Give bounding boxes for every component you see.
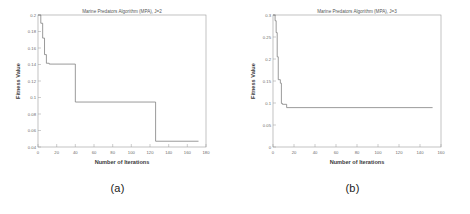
x-tick-label-a-3: 60 <box>92 150 97 155</box>
plot-area-frame-b <box>273 15 441 147</box>
x-tick-label-a-9: 180 <box>203 150 211 155</box>
figure-panel-a: Marine Predators Algorithm (MPA), J=2 <box>0 0 235 214</box>
panel-caption-b: (b) <box>235 182 470 194</box>
x-tick-label-a-6: 120 <box>147 150 155 155</box>
y-tick-label-a-5: 0.14 <box>28 62 37 67</box>
x-tick-label-a-1: 20 <box>54 150 59 155</box>
y-tick-label-a-4: 0.12 <box>28 79 37 84</box>
y-tick-label-b-5: 0.25 <box>263 35 272 40</box>
y-axis-label-a: Fitness Value <box>15 63 21 99</box>
chart-b: Marine Predators Algorithm (MPA), J=3 0 … <box>235 0 470 182</box>
y-tick-label-a-8: 0.2 <box>30 13 36 18</box>
plot-area-frame-a <box>38 15 206 147</box>
x-tick-label-a-0: 0 <box>37 150 40 155</box>
chart-title-b: Marine Predators Algorithm (MPA), J=3 <box>317 9 397 14</box>
y-tick-label-a-0: 0.04 <box>28 145 37 150</box>
y-tick-label-b-4: 0.2 <box>265 57 271 62</box>
x-tick-label-a-4: 80 <box>110 150 115 155</box>
x-axis-label-a: Number of Iterations <box>95 159 150 165</box>
y-tick-label-a-2: 0.08 <box>28 112 37 117</box>
x-tick-label-b-4: 80 <box>355 150 360 155</box>
y-tick-label-b-1: 0.05 <box>263 123 272 128</box>
x-tick-label-b-8: 160 <box>438 150 446 155</box>
y-tick-label-a-6: 0.16 <box>28 46 37 51</box>
x-tick-label-b-3: 60 <box>334 150 339 155</box>
x-tick-label-a-2: 40 <box>73 150 78 155</box>
x-tick-label-a-5: 100 <box>128 150 136 155</box>
x-tick-label-b-2: 40 <box>313 150 318 155</box>
x-axis-label-b: Number of Iterations <box>330 159 385 165</box>
x-tick-label-b-1: 20 <box>292 150 297 155</box>
figure-panel-row: Marine Predators Algorithm (MPA), J=2 <box>0 0 470 214</box>
y-tick-label-a-7: 0.18 <box>28 29 37 34</box>
y-tick-label-a-1: 0.06 <box>28 128 37 133</box>
x-tick-label-b-5: 100 <box>375 150 383 155</box>
chart-a: Marine Predators Algorithm (MPA), J=2 <box>0 0 235 182</box>
x-tick-label-b-6: 120 <box>396 150 404 155</box>
x-tick-label-a-7: 140 <box>165 150 173 155</box>
y-axis-label-b: Fitness Value <box>250 63 256 99</box>
chart-b-svg: Marine Predators Algorithm (MPA), J=3 0 … <box>235 0 470 182</box>
figure-panel-b: Marine Predators Algorithm (MPA), J=3 0 … <box>235 0 470 214</box>
x-tick-label-b-0: 0 <box>272 150 275 155</box>
y-tick-label-a-3: 0.1 <box>30 95 36 100</box>
chart-title-a: Marine Predators Algorithm (MPA), J=2 <box>82 9 162 14</box>
x-tick-label-a-8: 160 <box>184 150 192 155</box>
y-tick-label-b-2: 0.1 <box>265 101 271 106</box>
chart-a-svg: Marine Predators Algorithm (MPA), J=2 <box>0 0 235 182</box>
y-tick-label-b-6: 0.3 <box>265 13 271 18</box>
panel-caption-a: (a) <box>0 182 235 194</box>
y-tick-label-b-3: 0.15 <box>263 79 272 84</box>
x-tick-label-b-7: 140 <box>417 150 425 155</box>
